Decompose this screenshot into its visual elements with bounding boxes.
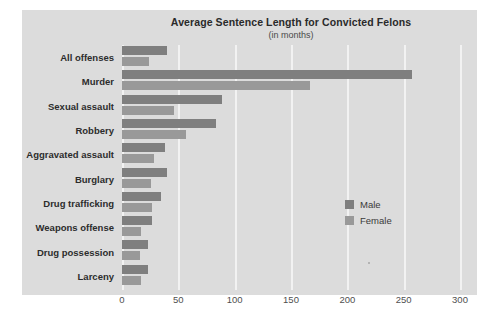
bar-female xyxy=(122,57,149,66)
chart-legend: MaleFemale xyxy=(345,197,392,229)
bar-male xyxy=(122,143,165,152)
legend-item-male[interactable]: Male xyxy=(345,197,392,211)
bar-female xyxy=(122,81,310,90)
legend-label: Female xyxy=(360,215,392,226)
category-label: All offenses xyxy=(60,52,114,63)
bar-female xyxy=(122,276,141,285)
bar-male xyxy=(122,95,222,104)
chart-row: Aggravated assault xyxy=(122,142,460,166)
x-tick-label: 300 xyxy=(452,294,468,305)
x-tick-label: 50 xyxy=(173,294,184,305)
chart-row: Drug possession xyxy=(122,239,460,263)
stray-speck xyxy=(368,262,370,264)
bar-male xyxy=(122,216,152,225)
bar-female xyxy=(122,130,186,139)
bar-female xyxy=(122,106,174,115)
x-tick-label: 150 xyxy=(283,294,299,305)
category-label: Drug trafficking xyxy=(43,197,114,208)
bar-male xyxy=(122,192,161,201)
bar-male xyxy=(122,265,148,274)
bar-female xyxy=(122,251,140,260)
category-label: Sexual assault xyxy=(48,100,114,111)
bar-female xyxy=(122,227,141,236)
x-tick-label: 100 xyxy=(227,294,243,305)
category-label: Larceny xyxy=(78,270,114,281)
legend-swatch-icon xyxy=(345,200,354,209)
category-label: Aggravated assault xyxy=(26,149,114,160)
chart-subtitle: (in months) xyxy=(122,30,460,40)
x-tick-label: 0 xyxy=(119,294,124,305)
chart-figure: Average Sentence Length for Convicted Fe… xyxy=(0,0,489,319)
x-axis-line xyxy=(25,305,462,308)
gridline-x-300 xyxy=(460,45,462,290)
chart-row: Murder xyxy=(122,69,460,93)
bar-male xyxy=(122,119,216,128)
bar-female xyxy=(122,203,152,212)
bar-female xyxy=(122,179,151,188)
chart-row: Drug trafficking xyxy=(122,191,460,215)
category-label: Weapons offense xyxy=(36,222,114,233)
plot-area: 050100150200250300All offensesMurderSexu… xyxy=(122,45,460,288)
bar-female xyxy=(122,154,154,163)
x-tick-label: 250 xyxy=(396,294,412,305)
bar-male xyxy=(122,168,167,177)
category-label: Robbery xyxy=(75,125,114,136)
x-tick-label: 200 xyxy=(339,294,355,305)
legend-swatch-icon xyxy=(345,216,354,225)
chart-row: Weapons offense xyxy=(122,215,460,239)
chart-row: All offenses xyxy=(122,45,460,69)
category-label: Drug possession xyxy=(37,246,114,257)
chart-row: Robbery xyxy=(122,118,460,142)
chart-row: Sexual assault xyxy=(122,94,460,118)
legend-item-female[interactable]: Female xyxy=(345,213,392,227)
bar-male xyxy=(122,70,412,79)
category-label: Murder xyxy=(82,76,114,87)
chart-row: Larceny xyxy=(122,264,460,288)
legend-label: Male xyxy=(360,199,381,210)
chart-row: Burglary xyxy=(122,167,460,191)
bar-male xyxy=(122,46,167,55)
chart-title: Average Sentence Length for Convicted Fe… xyxy=(122,16,460,28)
bar-male xyxy=(122,240,148,249)
chart-title-block: Average Sentence Length for Convicted Fe… xyxy=(122,16,460,40)
category-label: Burglary xyxy=(75,173,114,184)
